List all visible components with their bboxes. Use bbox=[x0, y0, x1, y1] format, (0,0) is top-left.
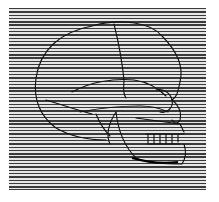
orbit bbox=[156, 89, 172, 112]
coronal-suture bbox=[114, 24, 126, 98]
skull-illustration bbox=[0, 0, 219, 202]
teeth bbox=[146, 134, 184, 144]
zygomatic-arch bbox=[80, 106, 168, 112]
temporal-line bbox=[72, 80, 166, 97]
nasal bbox=[172, 100, 181, 123]
mandible-ramus bbox=[108, 112, 116, 144]
maxilla bbox=[136, 118, 184, 132]
occipital-suture bbox=[46, 100, 92, 114]
